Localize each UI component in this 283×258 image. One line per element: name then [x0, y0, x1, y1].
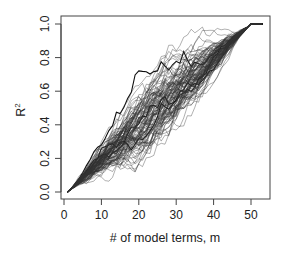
- r-squared-traces: [68, 24, 263, 192]
- y-tick-label: 0.4: [38, 116, 52, 133]
- y-tick-label: 0.2: [38, 150, 52, 167]
- x-tick-label: 50: [244, 208, 258, 222]
- x-axis: 01020304050: [61, 199, 258, 222]
- x-tick-label: 20: [132, 208, 146, 222]
- y-tick-label: 0.8: [38, 49, 52, 66]
- y-axis-label: R2: [13, 103, 28, 117]
- x-tick-label: 10: [95, 208, 109, 222]
- y-tick-label: 0.6: [38, 83, 52, 100]
- y-tick-label: 1.0: [38, 15, 52, 32]
- x-axis-label: # of model terms, m: [110, 231, 220, 245]
- y-tick-label: 0.0: [38, 183, 52, 200]
- x-tick-label: 30: [170, 208, 184, 222]
- x-tick-label: 40: [207, 208, 221, 222]
- r-squared-chart: 0.00.20.40.60.81.0 01020304050 # of mode…: [0, 0, 283, 258]
- x-tick-label: 0: [61, 208, 68, 222]
- y-axis: 0.00.20.40.60.81.0: [38, 15, 61, 200]
